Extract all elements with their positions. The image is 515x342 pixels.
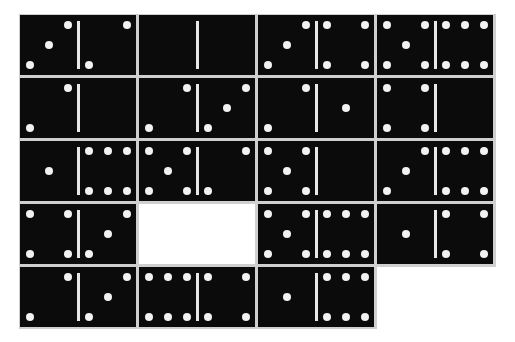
- left-pip-icon: [421, 61, 429, 69]
- tile-divider: [196, 84, 199, 132]
- tile-divider: [315, 147, 318, 195]
- left-pip-icon: [183, 273, 191, 281]
- right-pip-icon: [461, 61, 469, 69]
- left-pip-icon: [64, 84, 72, 92]
- left-pip-icon: [26, 124, 34, 132]
- tile-divider: [77, 147, 80, 195]
- right-pip-icon: [442, 21, 450, 29]
- right-pip-icon: [342, 210, 350, 218]
- right-pip-icon: [85, 250, 93, 258]
- right-pip-icon: [323, 61, 331, 69]
- left-pip-icon: [383, 187, 391, 195]
- tile-divider: [315, 84, 318, 132]
- domino-tile[interactable]: [258, 204, 374, 264]
- right-pip-icon: [442, 210, 450, 218]
- left-pip-icon: [383, 21, 391, 29]
- domino-tile[interactable]: [258, 141, 374, 201]
- domino-tile[interactable]: [139, 78, 255, 138]
- left-pip-icon: [45, 167, 53, 175]
- empty-area: [377, 267, 507, 337]
- right-pip-icon: [223, 104, 231, 112]
- left-pip-icon: [264, 124, 272, 132]
- right-pip-icon: [461, 21, 469, 29]
- right-pip-icon: [361, 273, 369, 281]
- left-pip-icon: [145, 273, 153, 281]
- domino-tile[interactable]: [139, 141, 255, 201]
- left-pip-icon: [64, 21, 72, 29]
- right-pip-icon: [123, 187, 131, 195]
- right-pip-icon: [480, 147, 488, 155]
- right-pip-icon: [361, 61, 369, 69]
- left-pip-icon: [145, 147, 153, 155]
- right-pip-icon: [342, 250, 350, 258]
- left-pip-icon: [64, 250, 72, 258]
- right-pip-icon: [461, 147, 469, 155]
- left-pip-icon: [302, 210, 310, 218]
- right-pip-icon: [323, 273, 331, 281]
- tile-divider: [77, 21, 80, 69]
- left-pip-icon: [302, 187, 310, 195]
- domino-tile[interactable]: [377, 15, 493, 75]
- domino-tile[interactable]: [258, 15, 374, 75]
- right-pip-icon: [323, 21, 331, 29]
- left-pip-icon: [64, 273, 72, 281]
- right-pip-icon: [361, 210, 369, 218]
- right-pip-icon: [204, 124, 212, 132]
- left-pip-icon: [383, 84, 391, 92]
- right-pip-icon: [461, 187, 469, 195]
- tile-divider: [196, 273, 199, 321]
- domino-tile[interactable]: [377, 78, 493, 138]
- right-pip-icon: [361, 250, 369, 258]
- domino-tile[interactable]: [20, 141, 136, 201]
- right-pip-icon: [104, 230, 112, 238]
- right-pip-icon: [442, 147, 450, 155]
- left-pip-icon: [45, 41, 53, 49]
- left-pip-icon: [402, 230, 410, 238]
- right-pip-icon: [242, 147, 250, 155]
- right-pip-icon: [242, 273, 250, 281]
- left-pip-icon: [26, 313, 34, 321]
- right-pip-icon: [442, 61, 450, 69]
- left-pip-icon: [183, 313, 191, 321]
- right-pip-icon: [480, 210, 488, 218]
- right-pip-icon: [242, 84, 250, 92]
- right-pip-icon: [323, 250, 331, 258]
- left-pip-icon: [421, 124, 429, 132]
- domino-tile[interactable]: [20, 15, 136, 75]
- right-pip-icon: [123, 21, 131, 29]
- right-pip-icon: [442, 250, 450, 258]
- right-pip-icon: [480, 61, 488, 69]
- tile-divider: [77, 273, 80, 321]
- domino-tile[interactable]: [258, 78, 374, 138]
- domino-tile[interactable]: [139, 267, 255, 327]
- domino-tile[interactable]: [20, 78, 136, 138]
- tile-divider: [196, 21, 199, 69]
- left-pip-icon: [302, 147, 310, 155]
- tile-divider: [434, 84, 437, 132]
- tile-divider: [77, 84, 80, 132]
- right-pip-icon: [361, 313, 369, 321]
- left-pip-icon: [283, 293, 291, 301]
- right-pip-icon: [104, 293, 112, 301]
- right-pip-icon: [342, 104, 350, 112]
- left-pip-icon: [164, 273, 172, 281]
- left-pip-icon: [183, 147, 191, 155]
- left-pip-icon: [421, 147, 429, 155]
- domino-tile[interactable]: [20, 267, 136, 327]
- domino-tile[interactable]: [377, 204, 493, 264]
- right-pip-icon: [123, 210, 131, 218]
- right-pip-icon: [342, 313, 350, 321]
- tile-divider: [196, 147, 199, 195]
- left-pip-icon: [145, 187, 153, 195]
- left-pip-icon: [64, 210, 72, 218]
- domino-tile[interactable]: [20, 204, 136, 264]
- right-pip-icon: [204, 187, 212, 195]
- right-pip-icon: [342, 273, 350, 281]
- domino-tile[interactable]: [258, 267, 374, 327]
- right-pip-icon: [123, 147, 131, 155]
- right-pip-icon: [480, 21, 488, 29]
- domino-tile[interactable]: [139, 15, 255, 75]
- left-pip-icon: [421, 21, 429, 29]
- left-pip-icon: [383, 61, 391, 69]
- domino-tile[interactable]: [377, 141, 493, 201]
